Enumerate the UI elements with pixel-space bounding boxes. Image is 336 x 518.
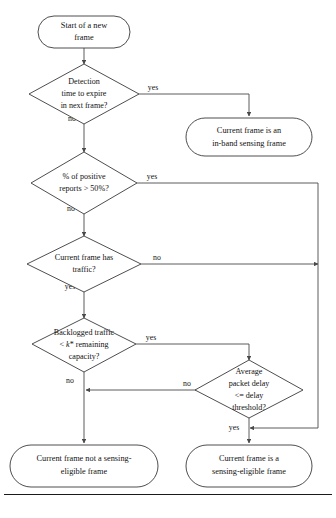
node-inband-frame-line-0: Current frame is an bbox=[217, 126, 282, 135]
node-backlogged-traffic-line-1: < k* remaining bbox=[59, 340, 108, 349]
node-eligible[interactable]: Current frame is a sensing-eligible fram… bbox=[186, 445, 312, 487]
node-average-delay-line-1: packet delay bbox=[229, 379, 271, 388]
node-backlogged-traffic[interactable]: Backlogged traffic < k* remaining capaci… bbox=[32, 318, 136, 372]
node-positive-reports[interactable]: % of positive reports > 50%? bbox=[31, 152, 137, 214]
edge-backlogged-yes-to-delay bbox=[136, 344, 249, 360]
node-positive-reports-line-1: reports > 50%? bbox=[59, 184, 109, 193]
node-average-delay-line-2: <= delay bbox=[235, 391, 265, 400]
node-detection-time-line-0: Detection bbox=[68, 77, 99, 86]
node-average-delay-line-0: Average bbox=[236, 367, 263, 376]
node-has-traffic[interactable]: Current frame has traffic? bbox=[27, 236, 141, 292]
node-start-line-0: Start of a new bbox=[61, 21, 107, 30]
node-detection-time-line-1: time to expire bbox=[62, 89, 107, 98]
node-has-traffic-line-1: traffic? bbox=[72, 265, 96, 274]
flowchart-canvas: yes no yes no no yes yes no no yes Start… bbox=[0, 0, 336, 518]
node-start[interactable]: Start of a new frame bbox=[38, 16, 130, 48]
node-detection-time[interactable]: Detection time to expire in next frame? bbox=[29, 64, 139, 124]
edge-label-reports-yes: yes bbox=[147, 172, 157, 181]
node-eligible-line-0: Current frame is a bbox=[219, 454, 279, 463]
node-inband-frame[interactable]: Current frame is an in-band sensing fram… bbox=[186, 118, 312, 156]
node-not-eligible-line-0: Current frame not a sensing- bbox=[37, 454, 132, 463]
node-eligible-line-1: sensing-eligible frame bbox=[212, 467, 286, 476]
node-start-line-1: frame bbox=[74, 33, 94, 42]
node-has-traffic-line-0: Current frame has bbox=[55, 253, 113, 262]
edge-label-traffic-no: no bbox=[153, 253, 161, 262]
node-positive-reports-line-0: % of positive bbox=[62, 172, 106, 181]
node-average-delay-line-3: threshold? bbox=[232, 403, 266, 412]
node-average-delay[interactable]: Average packet delay <= delay threshold? bbox=[195, 360, 303, 418]
caption-divider-rule bbox=[4, 494, 332, 495]
flowchart-figure: yes no yes no no yes yes no no yes Start… bbox=[0, 0, 336, 518]
edge-detection-yes-to-inband bbox=[139, 94, 249, 116]
edge-label-backlogged-no: no bbox=[66, 376, 74, 385]
edge-label-delay-no: no bbox=[183, 379, 191, 388]
node-inband-frame-shape bbox=[186, 118, 312, 156]
edge-label-detection-yes: yes bbox=[148, 83, 158, 92]
node-not-eligible-line-1: eligible frame bbox=[61, 467, 108, 476]
edge-label-delay-yes: yes bbox=[229, 423, 239, 432]
backlogged-suffix: * remaining bbox=[70, 340, 109, 349]
node-backlogged-traffic-line-0: Backlogged traffic bbox=[54, 328, 115, 337]
node-backlogged-traffic-line-2: capacity? bbox=[69, 352, 100, 361]
node-detection-time-line-2: in next frame? bbox=[61, 101, 108, 110]
edge-label-backlogged-yes: yes bbox=[146, 333, 156, 342]
node-inband-frame-line-1: in-band sensing frame bbox=[212, 139, 286, 148]
node-not-eligible[interactable]: Current frame not a sensing- eligible fr… bbox=[10, 445, 158, 487]
